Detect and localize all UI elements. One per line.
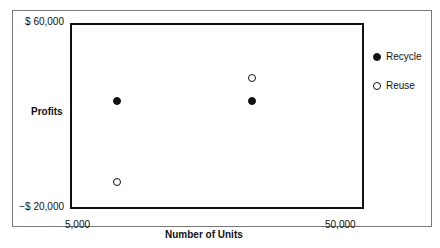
recycle-point xyxy=(113,97,121,105)
x-tick-max: 50,000 xyxy=(325,219,356,230)
legend-label: Reuse xyxy=(386,80,415,91)
y-axis-title: Profits xyxy=(31,106,63,117)
open-circle-icon xyxy=(373,82,381,90)
plot-area xyxy=(70,23,364,209)
x-axis-title: Number of Units xyxy=(165,229,243,240)
x-tick-min: 5,000 xyxy=(65,219,90,230)
recycle-point xyxy=(248,97,256,105)
y-tick-min: −$ 20,000 xyxy=(4,201,64,212)
reuse-point xyxy=(248,74,256,82)
legend-label: Recycle xyxy=(386,51,422,62)
filled-circle-icon xyxy=(373,53,381,61)
reuse-point xyxy=(113,178,121,186)
y-tick-max: $ 60,000 xyxy=(4,16,64,27)
